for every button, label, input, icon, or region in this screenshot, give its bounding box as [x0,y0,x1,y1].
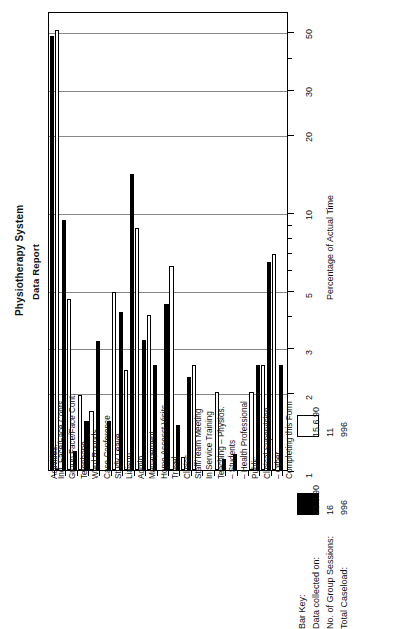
page-title: Physiotherapy System [14,205,25,316]
bar [135,228,139,471]
legend: Bar Key:Data collected on:No. of Group S… [295,355,403,629]
category-axis-tick [145,471,146,476]
category-axis-label: Teaching – Physios. [217,406,226,479]
legend-heading: Bar Key: [297,594,307,629]
legend-value-caseload: 996 [339,500,349,515]
category-axis-label: Clinical Supervision [263,408,272,479]
bar-group [255,13,266,470]
category-axis-tick [282,471,283,476]
category-axis-tick [88,471,89,476]
value-axis-label: 20 [304,132,314,142]
bar [130,174,134,470]
value-axis-label: 30 [304,87,314,97]
category-axis-label: In Service Training [205,411,214,479]
category-axis-tick [122,471,123,476]
value-axis-label: 50 [304,29,314,39]
category-axis-label: Staff/Team Meeting [194,409,203,479]
bar-group [220,13,231,470]
category-axis-label: – Health Professional [240,401,249,479]
value-axis-tick [288,135,294,136]
value-axis-title: Percentage of Actual Time [325,195,335,300]
legend-row-label-caseload: Total Caseload: [339,567,349,629]
bar [142,340,146,470]
category-axis-label: Completing this Form [285,401,294,479]
value-axis-label: 10 [304,210,314,220]
bar-group [106,13,117,470]
bar [50,36,54,470]
bar-group [83,13,94,470]
category-axis-tick [168,471,169,476]
bar-group [175,13,186,470]
category-axis-tick [111,471,112,476]
category-axis: Ind. Face/Face ContsGroup Face/Face Cont… [48,471,288,629]
category-axis-tick [202,471,203,476]
value-axis-tick [288,393,294,394]
bar-group [163,13,174,470]
category-axis-tick [214,471,215,476]
bar-group [140,13,151,470]
value-axis-tick [288,58,292,59]
category-axis-tick [237,471,238,476]
value-axis-tick [288,32,294,33]
category-axis-tick [179,471,180,476]
bar [169,266,173,471]
bar-group [266,13,277,470]
legend-value-caseload: 996 [339,422,349,437]
bar-group [129,13,140,470]
value-axis-tick [288,213,294,214]
bar-group [118,13,129,470]
category-axis-tick [191,471,192,476]
bar-group [95,13,106,470]
title-block: Physiotherapy System Data Report [0,0,44,629]
value-axis-tick [288,238,292,239]
bar-group [186,13,197,470]
legend-row-label-sessions: No. of Group Sessions: [325,536,335,629]
legend-value-sessions: 16 [325,505,335,515]
category-axis-tick [157,471,158,476]
page-subtitle: Data Report [30,244,41,300]
category-axis-tick [65,471,66,476]
bar-group [209,13,220,470]
value-axis-tick [288,253,292,254]
value-axis-tick [288,348,294,349]
category-axis-label: Group Face/Face Cont. [68,393,77,479]
value-axis-tick [288,225,292,226]
bar-group [152,13,163,470]
category-axis-tick [225,471,226,476]
bar [272,254,276,471]
value-axis-label: 5 [304,293,314,298]
bar-series-container [49,13,287,470]
value-axis-tick [288,90,294,91]
category-axis-title: Activities: [50,444,59,479]
category-axis-tick [248,471,249,476]
category-axis-tick [99,471,100,476]
value-axis-tick [288,270,292,271]
category-axis-tick [77,471,78,476]
legend-row-label-date: Data collected on: [311,557,321,629]
legend-value-sessions: 11 [325,428,335,437]
category-axis-label: Case Conference [103,415,112,479]
category-axis-tick [134,471,135,476]
bar-group [198,13,209,470]
category-axis-tick [259,471,260,476]
value-axis-tick [288,291,294,292]
category-axis-tick [271,471,272,476]
chart-plot-area [48,12,288,471]
legend-value-date: 22.3.90 [311,485,321,515]
legend-value-date: 15.6.90 [311,407,321,437]
category-axis-label: Home Assesst Visits [160,405,169,479]
value-axis-tick [288,316,292,317]
bar [256,365,260,470]
